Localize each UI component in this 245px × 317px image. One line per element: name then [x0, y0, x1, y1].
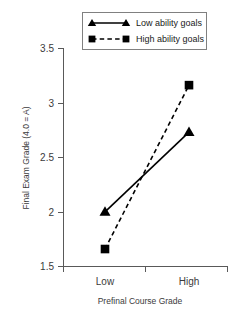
- y-axis-tick-labels: 3.5 3 2.5 2 1.5: [40, 43, 54, 272]
- y-tick-label-1-5: 1.5: [40, 261, 54, 272]
- legend-label-low-ability-goals: Low ability goals: [136, 18, 203, 28]
- series-low-ability-goals: [100, 127, 195, 216]
- line-chart: 3.5 3 2.5 2 1.5 Final Exam Grade (4.0 = …: [0, 0, 245, 317]
- series-line: [105, 132, 189, 212]
- square-marker: [101, 245, 110, 254]
- y-axis: 3.5 3 2.5 2 1.5 Final Exam Grade (4.0 = …: [21, 43, 64, 272]
- data-series-layer: [100, 81, 195, 253]
- y-tick-label-3: 3: [48, 98, 54, 109]
- square-marker: [185, 81, 194, 90]
- x-tick-label-high: High: [179, 276, 200, 287]
- x-axis: Low High Prefinal Course Grade: [64, 267, 229, 307]
- legend: Low ability goals High ability goals: [83, 13, 207, 50]
- y-axis-ticks: [58, 49, 64, 267]
- y-tick-label-3-5: 3.5: [40, 43, 54, 54]
- square-marker: [123, 36, 130, 43]
- y-tick-label-2-5: 2.5: [40, 152, 54, 163]
- triangle-marker: [184, 127, 195, 137]
- series-high-ability-goals: [101, 81, 194, 253]
- x-tick-label-low: Low: [96, 276, 115, 287]
- series-line: [105, 85, 189, 249]
- chart-figure: 3.5 3 2.5 2 1.5 Final Exam Grade (4.0 = …: [0, 0, 245, 317]
- x-axis-tick-labels: Low High: [96, 276, 199, 287]
- y-tick-label-2: 2: [48, 207, 54, 218]
- square-marker: [89, 36, 96, 43]
- x-axis-title: Prefinal Course Grade: [98, 296, 183, 306]
- y-axis-title: Final Exam Grade (4.0 = A): [21, 106, 31, 209]
- x-axis-ticks: [64, 267, 228, 273]
- legend-label-high-ability-goals: High ability goals: [136, 34, 205, 44]
